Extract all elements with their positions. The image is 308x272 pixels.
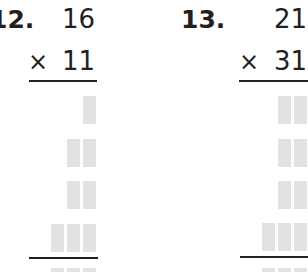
- answer-box[interactable]: [294, 223, 307, 251]
- multiplier: 31: [274, 48, 307, 74]
- answer-row-2: [278, 139, 307, 167]
- answer-box[interactable]: [83, 224, 96, 252]
- answer-box[interactable]: [51, 268, 64, 272]
- answer-box[interactable]: [278, 96, 291, 124]
- answer-box[interactable]: [67, 181, 80, 209]
- answer-row-4: [51, 224, 96, 252]
- answer-box[interactable]: [278, 181, 291, 209]
- multiply-operator: ×: [28, 50, 48, 74]
- multiplicand: 21: [274, 6, 307, 32]
- sum-line: [29, 257, 98, 259]
- answer-row-3: [67, 181, 96, 209]
- answer-box[interactable]: [51, 224, 64, 252]
- answer-box[interactable]: [294, 96, 307, 124]
- answer-box[interactable]: [83, 181, 96, 209]
- answer-box[interactable]: [83, 268, 96, 272]
- answer-box[interactable]: [294, 139, 307, 167]
- multiply-operator: ×: [239, 50, 259, 74]
- answer-box[interactable]: [278, 139, 291, 167]
- answer-row-1: [83, 96, 96, 124]
- multiplicand: 16: [62, 6, 95, 32]
- answer-box[interactable]: [294, 181, 307, 209]
- answer-box[interactable]: [294, 268, 307, 272]
- sum-line: [29, 80, 97, 82]
- answer-box[interactable]: [262, 268, 275, 272]
- multiplier: 11: [62, 48, 95, 74]
- answer-row-total: [51, 268, 96, 272]
- answer-row-total: [262, 268, 307, 272]
- answer-box[interactable]: [278, 268, 291, 272]
- answer-box[interactable]: [67, 268, 80, 272]
- problem-number: 12.: [0, 7, 34, 32]
- problem-number: 13.: [181, 7, 225, 32]
- answer-row-3: [278, 181, 307, 209]
- answer-box[interactable]: [83, 139, 96, 167]
- answer-box[interactable]: [67, 139, 80, 167]
- answer-row-4: [262, 223, 307, 251]
- answer-box[interactable]: [83, 96, 96, 124]
- sum-line: [239, 80, 308, 82]
- answer-box[interactable]: [262, 223, 275, 251]
- sum-line: [240, 256, 308, 258]
- answer-box[interactable]: [67, 224, 80, 252]
- answer-row-1: [278, 96, 307, 124]
- answer-box[interactable]: [278, 223, 291, 251]
- answer-row-2: [67, 139, 96, 167]
